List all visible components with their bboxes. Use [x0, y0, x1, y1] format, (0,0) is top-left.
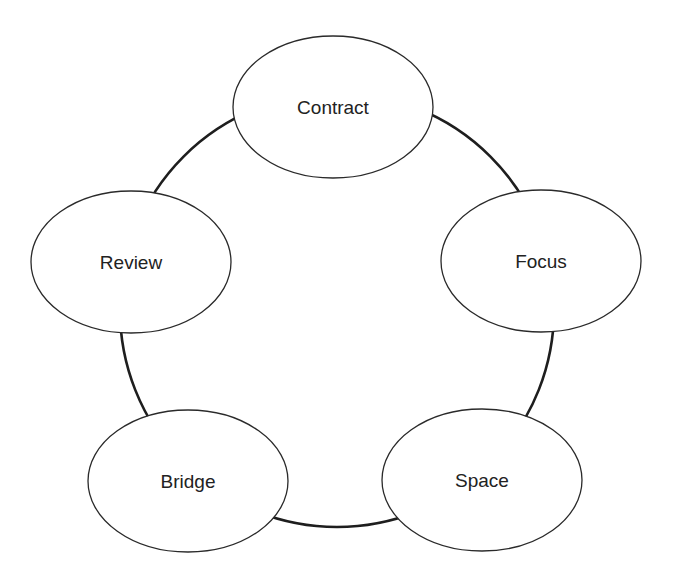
node-contract: Contract: [233, 36, 433, 178]
node-bridge: Bridge: [88, 410, 288, 552]
node-bridge-label: Bridge: [161, 471, 216, 492]
node-space-label: Space: [455, 470, 509, 491]
node-focus-label: Focus: [515, 251, 567, 272]
cycle-diagram: Contract Focus Space Bridge Review: [0, 0, 677, 579]
node-contract-label: Contract: [297, 97, 370, 118]
node-review-label: Review: [100, 252, 163, 273]
node-review: Review: [31, 191, 231, 333]
node-focus: Focus: [441, 190, 641, 332]
node-space: Space: [382, 409, 582, 551]
